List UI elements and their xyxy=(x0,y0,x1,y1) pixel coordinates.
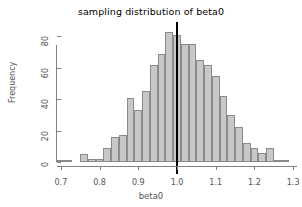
x-tick-label: 1.3 xyxy=(287,178,300,187)
x-tick-label: 0.7 xyxy=(54,178,67,187)
reference-line xyxy=(176,22,178,174)
histogram-bar xyxy=(103,148,111,162)
x-tick xyxy=(254,166,255,170)
histogram-bar xyxy=(212,76,220,162)
x-tick-label: 1.0 xyxy=(171,178,184,187)
histogram-bar xyxy=(196,60,204,162)
y-tick-label: 0 xyxy=(41,162,50,167)
histogram-plot: sampling distribution of beta0 Frequency… xyxy=(0,0,302,207)
histogram-bar xyxy=(204,65,212,162)
histogram-bar xyxy=(189,44,197,162)
x-tick-label: 0.8 xyxy=(93,178,106,187)
x-tick-label: 0.9 xyxy=(132,178,145,187)
x-tick xyxy=(61,166,62,170)
x-tick xyxy=(216,166,217,170)
y-tick-label: 60 xyxy=(41,68,50,78)
histogram-bar xyxy=(65,160,73,162)
histogram-bar xyxy=(80,154,88,162)
histogram-bar xyxy=(119,135,127,162)
x-axis-label: beta0 xyxy=(0,191,302,201)
histogram-bar xyxy=(127,98,135,162)
histogram-bar xyxy=(243,143,251,162)
x-tick-label: 1.1 xyxy=(209,178,222,187)
x-tick xyxy=(293,166,294,170)
histogram-bar xyxy=(266,148,274,162)
x-tick xyxy=(100,166,101,170)
x-tick-label: 1.2 xyxy=(248,178,261,187)
histogram-bar xyxy=(251,148,259,162)
y-axis-label: Frequency xyxy=(8,62,17,103)
histogram-bar xyxy=(282,160,290,162)
x-axis xyxy=(57,166,297,178)
histogram-bar xyxy=(158,54,166,162)
histogram-bar xyxy=(88,159,96,162)
y-tick-label: 80 xyxy=(41,36,50,46)
plot-panel xyxy=(57,30,297,162)
histogram-bar xyxy=(142,91,150,162)
histogram-bar xyxy=(150,65,158,162)
histogram-bar xyxy=(220,96,228,162)
histogram-bar xyxy=(181,44,189,162)
histogram-bar xyxy=(57,160,65,162)
histogram-bar xyxy=(96,159,104,162)
histogram-bar xyxy=(235,127,243,162)
histogram-bar xyxy=(274,160,282,162)
histogram-bar xyxy=(227,115,235,162)
y-tick xyxy=(57,162,61,163)
x-tick xyxy=(138,166,139,170)
y-tick-label: 20 xyxy=(41,131,50,141)
histogram-bar xyxy=(165,32,173,162)
histogram-bar xyxy=(111,137,119,162)
chart-title: sampling distribution of beta0 xyxy=(0,6,302,17)
y-tick-label: 40 xyxy=(41,99,50,109)
histogram-bar xyxy=(258,153,266,162)
x-tick xyxy=(177,166,178,170)
histogram-bar xyxy=(134,110,142,162)
